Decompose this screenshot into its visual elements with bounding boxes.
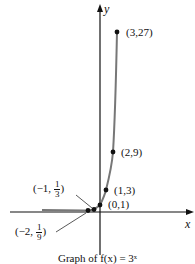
leader-minus2 xyxy=(56,213,86,232)
point-label-2: (2,9) xyxy=(121,147,142,158)
point-minus1 xyxy=(92,207,97,212)
point-label-minus1: (−1, 13) xyxy=(33,180,64,199)
point-minus2 xyxy=(86,208,91,213)
label-prefix: (−1, xyxy=(33,182,51,194)
label-suffix: ) xyxy=(60,182,64,194)
label-prefix: (−2, xyxy=(15,225,33,237)
point-label-1: (1,3) xyxy=(114,185,135,196)
point-0 xyxy=(98,203,103,208)
x-axis-arrow-icon xyxy=(186,209,194,215)
point-1 xyxy=(104,188,109,193)
x-axis-label: x xyxy=(185,217,190,232)
leader-minus1 xyxy=(76,195,92,208)
point-label-minus2: (−2, 19) xyxy=(15,223,46,242)
y-axis-arrow-icon xyxy=(97,4,103,12)
point-label-0: (0,1) xyxy=(108,199,129,210)
point-2 xyxy=(111,150,116,155)
point-label-3: (3,27) xyxy=(126,27,153,38)
chart-caption: Graph of f(x) = 3ˣ xyxy=(0,252,195,264)
point-3 xyxy=(115,30,120,35)
y-axis-label: y xyxy=(104,2,109,17)
label-suffix: ) xyxy=(42,225,46,237)
